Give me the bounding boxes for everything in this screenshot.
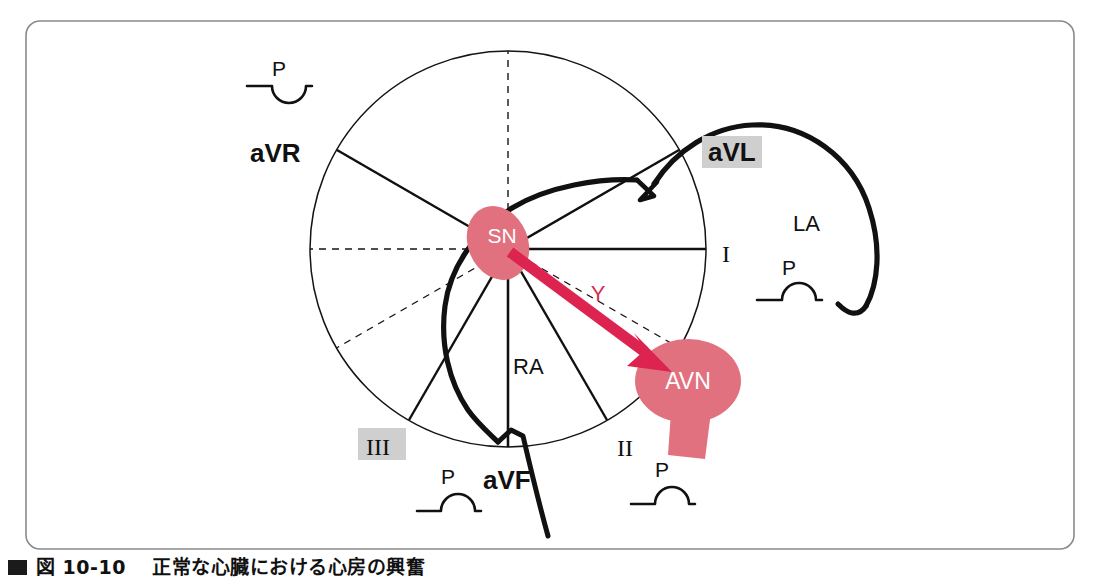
lead-label-avf: aVF: [483, 465, 531, 495]
figure-root: AVN SN Y RA LA aVR: [0, 0, 1099, 581]
lead-label-i: I: [722, 241, 730, 267]
lead-avl-text: aVL: [708, 137, 756, 167]
lead-avf-text: aVF: [483, 465, 531, 495]
svg-text:aVL: aVL: [708, 137, 756, 167]
p-wave-ii-label: P: [655, 458, 669, 481]
av-node-bundle: [668, 412, 711, 459]
caption-square-icon: [8, 560, 27, 575]
p-wave-avl-label: P: [782, 256, 796, 279]
figure-caption: 図 10-10 正常な心臓における心房の興奮: [8, 556, 426, 578]
lead-label-ii: II: [617, 435, 633, 461]
p-wave-avf-label: P: [441, 465, 455, 488]
left-atrium-label: LA: [793, 211, 820, 236]
lead-label-iii: III: [358, 428, 406, 460]
p-wave-avr-label: P: [272, 57, 286, 80]
svg-text:aVF: aVF: [483, 465, 531, 495]
av-node-label: AVN: [665, 368, 711, 394]
sinus-node-label: SN: [487, 224, 516, 247]
svg-text:aVR: aVR: [250, 138, 301, 168]
vector-label: Y: [591, 281, 606, 306]
lead-label-avl: aVL: [702, 136, 762, 168]
lead-avr-text: aVR: [250, 138, 301, 168]
lead-iii-text: III: [366, 434, 390, 460]
caption-text: 図 10-10 正常な心臓における心房の興奮: [36, 556, 426, 578]
lead-label-avr: aVR: [250, 138, 301, 168]
svg-text:III: III: [366, 434, 390, 460]
right-atrium-label: RA: [513, 354, 544, 379]
atrial-activation-diagram: AVN SN Y RA LA aVR: [0, 0, 1099, 581]
